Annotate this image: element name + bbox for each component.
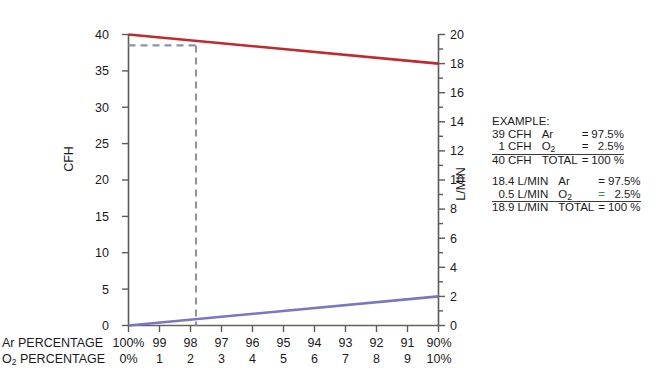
example-cfh-total-amount: 40 CFH: [492, 154, 542, 167]
y-left-tick-10: 10: [95, 246, 109, 260]
y-left-tick-25: 25: [95, 137, 109, 151]
x-tick-ar-5: 95: [268, 336, 299, 350]
example-lmin-symbol-ar: Ar: [558, 176, 598, 189]
example-lmin-eq-ar: =: [598, 176, 608, 189]
example-lmin-total-value: 100 %: [608, 202, 641, 215]
y-right-tick-16: 16: [450, 86, 464, 100]
example-lmin-total-number: 100: [608, 201, 627, 213]
left-axis-ticks: [122, 35, 129, 326]
example-lmin-eq-o2: =: [598, 189, 608, 202]
y-right-tick-20: 20: [450, 28, 464, 42]
x-tick-o2-8: 8: [361, 352, 392, 366]
x-tick-ar-8: 92: [361, 336, 392, 350]
y-left-axis-title: CFH: [62, 139, 76, 179]
example-block: EXAMPLE: 39 CFH Ar = 97.5% 1 CFH O2 = 2.…: [492, 116, 667, 215]
example-cfh-eq-o2: =: [582, 141, 592, 154]
x-tick-ar-10: 90%: [418, 336, 460, 350]
y-left-tick-35: 35: [95, 64, 109, 78]
y-right-tick-14: 14: [450, 115, 464, 129]
example-cfh-total-unit: %: [614, 154, 624, 166]
x-row-label-o2: O2 PERCENTAGE: [2, 352, 105, 366]
example-lmin-value-ar: 97.5%: [608, 176, 641, 189]
example-table-cfh: 39 CFH Ar = 97.5% 1 CFH O2 = 2.5% 40 CFH…: [492, 129, 624, 168]
x-tick-ar-2: 98: [175, 336, 206, 350]
example-cfh-amount-o2: 1 CFH: [492, 141, 542, 154]
right-axis-ticks: [439, 35, 446, 326]
x-tick-o2-3: 3: [206, 352, 237, 366]
y-right-tick-18: 18: [450, 57, 464, 71]
x-tick-o2-1: 1: [144, 352, 175, 366]
y-left-tick-40: 40: [95, 28, 109, 42]
table-row: 0.5 L/MIN O2 = 2.5%: [492, 189, 641, 202]
x-tick-o2-4: 4: [237, 352, 268, 366]
example-cfh-symbol-o2: O2: [542, 141, 582, 154]
argon-flow-line: [129, 35, 439, 64]
x-tick-ar-1: 99: [144, 336, 175, 350]
oxygen-flow-line: [129, 296, 439, 325]
example-lmin-total-label: TOTAL: [558, 202, 598, 215]
y-right-tick-6: 6: [450, 232, 457, 246]
x-tick-o2-7: 7: [330, 352, 361, 366]
example-lmin-total-eq: =: [598, 202, 608, 215]
x-tick-o2-0: 0%: [110, 352, 147, 366]
x-tick-ar-7: 93: [330, 336, 361, 350]
example-table-lmin: 18.4 L/MIN Ar = 97.5% 0.5 L/MIN O2 = 2.5…: [492, 176, 641, 215]
x-tick-o2-2: 2: [175, 352, 206, 366]
example-lmin-amount-o2: 0.5 L/MIN: [492, 189, 558, 202]
x-tick-ar-4: 96: [237, 336, 268, 350]
y-right-tick-2: 2: [450, 290, 457, 304]
example-cfh-total-number: 100: [591, 154, 610, 166]
example-lmin-amount-ar: 18.4 L/MIN: [492, 176, 558, 189]
example-lmin-symbol-o2: O2: [558, 189, 598, 202]
y-left-tick-30: 30: [95, 101, 109, 115]
y-left-tick-5: 5: [102, 283, 109, 297]
example-cfh-total-eq: =: [582, 154, 592, 167]
example-lmin-total-amount: 18.9 L/MIN: [492, 202, 558, 215]
x-tick-o2-10: 10%: [418, 352, 460, 366]
x-tick-ar-6: 94: [299, 336, 330, 350]
example-lmin-value-o2: 2.5%: [608, 189, 641, 202]
x-row-label-ar: Ar PERCENTAGE: [2, 336, 103, 350]
table-row: 1 CFH O2 = 2.5%: [492, 141, 624, 154]
example-cfh-value-o2: 2.5%: [591, 141, 624, 154]
table-row: 18.9 L/MIN TOTAL = 100 %: [492, 202, 641, 215]
y-left-tick-0: 0: [102, 319, 109, 333]
example-lmin-total-unit: %: [630, 201, 640, 213]
y-right-axis-title: L/MIN: [454, 154, 468, 214]
y-right-tick-4: 4: [450, 261, 457, 275]
axis-lines: [129, 34, 439, 326]
y-left-tick-15: 15: [95, 210, 109, 224]
example-cfh-total-label: TOTAL: [542, 154, 582, 167]
example-heading: EXAMPLE:: [492, 116, 667, 128]
table-row: 18.4 L/MIN Ar = 97.5%: [492, 176, 641, 189]
x-tick-o2-5: 5: [268, 352, 299, 366]
x-tick-ar-3: 97: [206, 336, 237, 350]
y-right-tick-0: 0: [450, 319, 457, 333]
x-axis-ticks: [129, 326, 439, 333]
example-cfh-total-value: 100 %: [591, 154, 624, 167]
x-tick-o2-6: 6: [299, 352, 330, 366]
table-row: 40 CFH TOTAL = 100 %: [492, 154, 624, 167]
y-left-tick-20: 20: [95, 173, 109, 187]
guide-lines: [129, 45, 197, 325]
